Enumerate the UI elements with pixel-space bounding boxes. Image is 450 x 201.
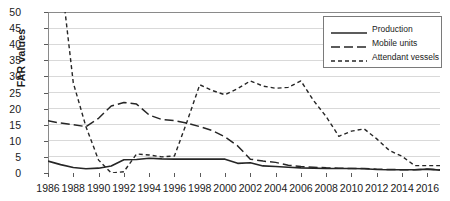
x-axis-tick-labels: 1986198819901992199419961998200020022004…	[48, 173, 448, 201]
x-tick-label: 1990	[87, 182, 110, 194]
x-tick-label: 1998	[188, 182, 211, 194]
x-tick-label: 2010	[340, 182, 363, 194]
series-line-production	[48, 158, 440, 170]
x-tick-mark	[48, 173, 49, 177]
x-tick-label: 2012	[365, 182, 388, 194]
x-tick-mark	[276, 173, 277, 177]
chart-legend: ProductionMobile unitsAttendant vessels	[323, 16, 442, 68]
x-tick-label: 2016	[416, 182, 439, 194]
x-tick-mark	[73, 173, 74, 177]
y-tick-label: 10	[0, 136, 21, 146]
x-tick-mark	[301, 173, 302, 177]
y-tick-label: 0	[0, 168, 21, 178]
x-tick-label: 2000	[213, 182, 236, 194]
y-tick-label: 40	[0, 39, 21, 49]
x-tick-mark	[99, 173, 100, 177]
x-tick-label: 1996	[163, 182, 186, 194]
x-tick-label: 2004	[264, 182, 287, 194]
y-tick-label: 45	[0, 23, 21, 33]
x-tick-label: 1986	[36, 182, 59, 194]
x-tick-mark	[402, 173, 403, 177]
x-tick-mark	[250, 173, 251, 177]
series-line-mobile-units	[48, 102, 440, 169]
x-tick-mark	[351, 173, 352, 177]
x-tick-mark	[124, 173, 125, 177]
x-tick-mark	[427, 173, 428, 177]
y-tick-label: 5	[0, 152, 21, 162]
x-tick-label: 1994	[137, 182, 160, 194]
x-tick-mark	[225, 173, 226, 177]
legend-label: Production	[372, 24, 413, 34]
y-tick-label: 15	[0, 120, 21, 130]
legend-item-production[interactable]: Production	[330, 22, 413, 36]
x-tick-label: 2002	[239, 182, 262, 194]
x-tick-label: 2014	[390, 182, 413, 194]
legend-swatch-icon	[330, 52, 368, 62]
legend-label: Attendant vessels	[372, 52, 439, 62]
x-tick-mark	[200, 173, 201, 177]
legend-item-attendant-vessels[interactable]: Attendant vessels	[330, 50, 439, 64]
y-tick-label: 20	[0, 104, 21, 114]
x-tick-mark	[149, 173, 150, 177]
x-tick-label: 1988	[62, 182, 85, 194]
y-tick-label: 30	[0, 71, 21, 81]
x-tick-mark	[377, 173, 378, 177]
y-tick-label: 25	[0, 88, 21, 98]
y-tick-label: 35	[0, 55, 21, 65]
legend-label: Mobile units	[372, 38, 417, 48]
y-tick-label: 50	[0, 7, 21, 17]
legend-swatch-icon	[330, 24, 368, 34]
far-values-line-chart: FAR values 05101520253035404550 19861988…	[0, 0, 450, 201]
x-tick-label: 2006	[289, 182, 312, 194]
x-tick-label: 2008	[315, 182, 338, 194]
x-tick-label: 1992	[112, 182, 135, 194]
y-axis-tick-labels: 05101520253035404550	[0, 0, 46, 185]
legend-item-mobile-units[interactable]: Mobile units	[330, 36, 417, 50]
legend-swatch-icon	[330, 38, 368, 48]
x-tick-mark	[326, 173, 327, 177]
x-tick-mark	[174, 173, 175, 177]
